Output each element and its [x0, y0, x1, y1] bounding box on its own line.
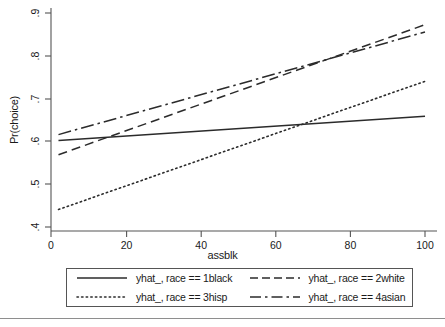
y-axis-title-text: Pr(choice) [8, 81, 20, 159]
legend-item-4asian[interactable]: yhat_, race == 4asian [240, 288, 413, 307]
legend-key-dashed-icon [249, 273, 301, 283]
y-tick-label-2: .7 [29, 86, 41, 112]
legend-label-1black: yhat_, race == 1black [136, 272, 232, 284]
y-tick-label-1: .8 [29, 43, 41, 69]
series-line-3hisp [59, 81, 426, 209]
series-line-2white [59, 25, 426, 155]
y-tick-label-4: .5 [29, 171, 41, 197]
legend-label-2white: yhat_, race == 2white [309, 272, 405, 284]
chart-legend: yhat_, race == 1black yhat_, race == 2wh… [66, 268, 413, 307]
page-divider [0, 318, 445, 319]
legend-label-4asian: yhat_, race == 4asian [309, 291, 406, 303]
legend-key-solid-icon [76, 273, 128, 283]
legend-item-1black[interactable]: yhat_, race == 1black [67, 269, 240, 288]
legend-item-2white[interactable]: yhat_, race == 2white [240, 269, 413, 288]
legend-label-3hisp: yhat_, race == 3hisp [136, 291, 227, 303]
chart-figure: Pr(choice) .9 .8 .7 .6 .5 .4 0 20 40 60 … [0, 0, 445, 327]
x-tick-marks [51, 231, 425, 237]
x-axis-title: assblk [0, 249, 445, 261]
legend-key-dash-dot-icon [249, 292, 301, 302]
legend-key-dotted-icon [76, 292, 128, 302]
y-tick-marks [45, 13, 51, 227]
y-tick-label-0: .9 [29, 0, 41, 26]
y-tick-label-5: .4 [29, 214, 41, 240]
y-axis-title: Pr(choice) [2, 84, 24, 164]
legend-item-3hisp[interactable]: yhat_, race == 3hisp [67, 288, 240, 307]
y-tick-label-3: .6 [29, 128, 41, 154]
